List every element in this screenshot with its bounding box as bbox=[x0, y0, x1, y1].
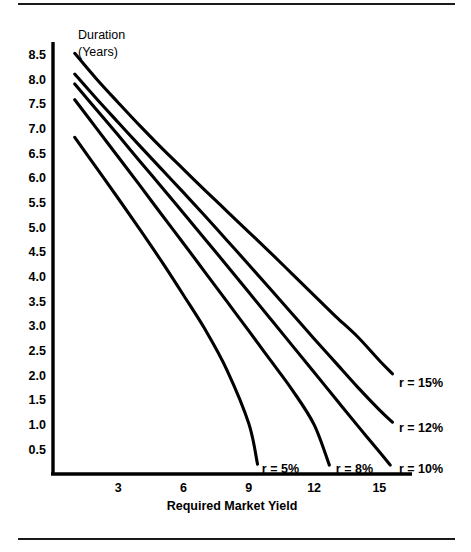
series-curves bbox=[75, 53, 393, 465]
curve-label: r = 15% bbox=[399, 376, 443, 390]
x-tick-label: 6 bbox=[180, 481, 187, 495]
y-tick-label: 5.5 bbox=[29, 196, 46, 210]
y-tick-label: 7.0 bbox=[29, 122, 46, 136]
curve-r-8- bbox=[75, 100, 330, 465]
y-tick-label: 2.0 bbox=[29, 369, 46, 383]
y-tick-label: 5.0 bbox=[29, 221, 46, 235]
duration-vs-yield-chart: 0.51.01.52.02.53.03.54.04.55.05.56.06.57… bbox=[0, 0, 471, 552]
y-axis-tick-labels: 0.51.01.52.02.53.03.54.04.55.05.56.06.57… bbox=[29, 48, 46, 457]
y-tick-label: 8.5 bbox=[29, 48, 46, 62]
y-tick-label: 8.0 bbox=[29, 73, 46, 87]
y-tick-label: 3.5 bbox=[29, 295, 46, 309]
x-tick-label: 9 bbox=[245, 481, 252, 495]
curve-r-12- bbox=[75, 74, 393, 422]
curve-label: r = 10% bbox=[399, 462, 443, 476]
series-labels: r = 15%r = 12%r = 10%r = 8%r = 5% bbox=[262, 376, 443, 475]
y-axis-title-line-1: Duration bbox=[78, 28, 125, 42]
y-tick-label: 6.0 bbox=[29, 171, 46, 185]
curve-r-10- bbox=[75, 84, 390, 465]
figure-container: 0.51.01.52.02.53.03.54.04.55.05.56.06.57… bbox=[0, 0, 471, 552]
curve-label: r = 5% bbox=[262, 462, 299, 476]
x-tick-label: 12 bbox=[307, 481, 321, 495]
y-tick-label: 3.0 bbox=[29, 319, 46, 333]
y-tick-label: 6.5 bbox=[29, 147, 46, 161]
curve-r-15- bbox=[75, 53, 393, 373]
y-tick-label: 4.0 bbox=[29, 270, 46, 284]
y-tick-label: 7.5 bbox=[29, 97, 46, 111]
y-axis-title-line-2: (Years) bbox=[78, 45, 118, 59]
curve-r-5- bbox=[75, 137, 258, 464]
curve-label: r = 8% bbox=[336, 462, 373, 476]
y-tick-label: 2.5 bbox=[29, 344, 46, 358]
y-tick-label: 0.5 bbox=[29, 443, 46, 457]
curve-label: r = 12% bbox=[399, 421, 443, 435]
y-tick-label: 4.5 bbox=[29, 245, 46, 259]
x-axis-title: Required Market Yield bbox=[167, 499, 298, 513]
x-tick-label: 15 bbox=[372, 481, 386, 495]
y-tick-label: 1.5 bbox=[29, 393, 46, 407]
x-tick-label: 3 bbox=[115, 481, 122, 495]
y-tick-label: 1.0 bbox=[29, 418, 46, 432]
x-axis-tick-labels: 3691215 bbox=[115, 481, 387, 495]
